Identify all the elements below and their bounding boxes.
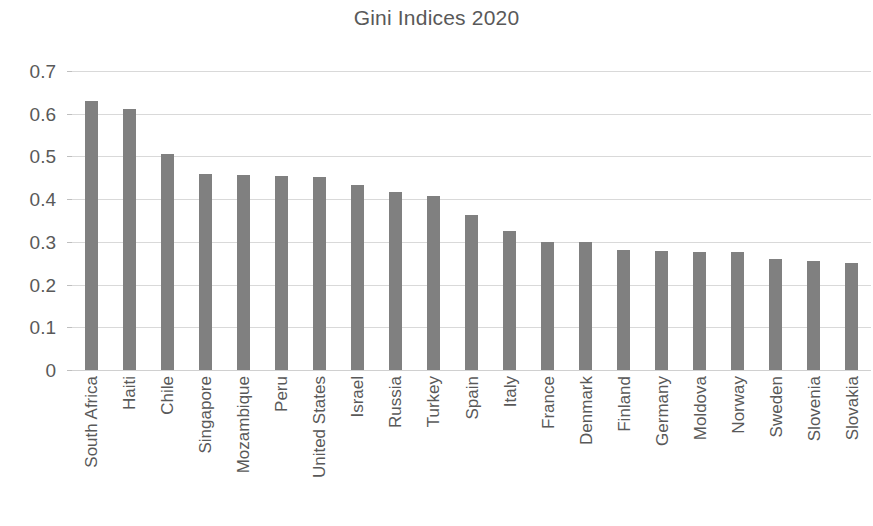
x-axis-label-slot: Italy	[497, 376, 523, 524]
bar	[465, 215, 478, 370]
x-axis-label-slot: Finland	[611, 376, 637, 524]
bar	[427, 196, 440, 370]
y-axis-tick-label: 0.2	[30, 275, 56, 294]
y-tick-mark	[67, 327, 72, 328]
bar	[199, 174, 212, 370]
y-tick-mark	[67, 156, 72, 157]
y-axis-tick-label: 0	[45, 361, 56, 380]
x-axis-label-slot: Norway	[725, 376, 751, 524]
bar	[123, 109, 136, 370]
bar	[313, 177, 326, 370]
x-axis-tick-label: Singapore	[197, 376, 214, 454]
bar	[351, 185, 364, 370]
gridline-0.5	[72, 156, 871, 157]
y-tick-mark	[67, 285, 72, 286]
bar	[731, 252, 744, 370]
x-axis-tick-label: Denmark	[577, 376, 594, 445]
bar	[845, 263, 858, 370]
y-tick-mark	[67, 242, 72, 243]
y-axis-tick-label: 0.5	[30, 147, 56, 166]
bar	[693, 252, 706, 370]
x-axis-tick-label: Haiti	[121, 376, 138, 410]
y-axis: 00.10.20.30.40.50.60.7	[0, 0, 66, 526]
x-axis-tick-label: Germany	[653, 376, 670, 446]
x-axis-tick-label: Mozambique	[235, 376, 252, 473]
x-axis-label-slot: Turkey	[420, 376, 446, 524]
bar	[541, 242, 554, 370]
bar	[579, 242, 592, 370]
y-axis-tick-label: 0.1	[30, 318, 56, 337]
x-axis-label-slot: France	[535, 376, 561, 524]
bar	[85, 101, 98, 370]
x-axis-tick-label: Spain	[463, 376, 480, 419]
bar	[617, 250, 630, 370]
x-axis-label-slot: Mozambique	[230, 376, 256, 524]
y-axis-tick-label: 0.6	[30, 104, 56, 123]
x-axis-label-slot: Singapore	[192, 376, 218, 524]
gridline-0.7	[72, 71, 871, 72]
plot-area	[72, 71, 871, 370]
y-axis-tick-label: 0.3	[30, 232, 56, 251]
bar	[237, 175, 250, 370]
x-axis-label-slot: United States	[306, 376, 332, 524]
x-axis-tick-label: Italy	[501, 376, 518, 407]
x-axis-tick-label: Moldova	[691, 376, 708, 440]
x-axis-tick-label: Norway	[729, 376, 746, 434]
x-axis-label-slot: Germany	[649, 376, 675, 524]
bar	[275, 176, 288, 370]
x-axis-tick-label: United States	[311, 376, 328, 478]
x-axis-tick-label: Chile	[159, 376, 176, 415]
bar	[161, 154, 174, 370]
y-tick-mark	[67, 114, 72, 115]
x-axis-label-slot: Spain	[459, 376, 485, 524]
x-axis-tick-label: Turkey	[425, 376, 442, 427]
x-axis-tick-label: France	[539, 376, 556, 429]
x-axis: South AfricaHaitiChileSingaporeMozambiqu…	[72, 376, 871, 526]
y-tick-mark	[67, 199, 72, 200]
y-axis-tick-label: 0.4	[30, 190, 56, 209]
x-axis-label-slot: Sweden	[763, 376, 789, 524]
x-axis-tick-label: Peru	[273, 376, 290, 412]
x-axis-tick-label: Slovenia	[805, 376, 822, 441]
x-axis-tick-label: Israel	[349, 376, 366, 418]
gridline-0.4	[72, 199, 871, 200]
x-axis-label-slot: Peru	[268, 376, 294, 524]
bar	[807, 261, 820, 370]
x-axis-label-slot: Chile	[154, 376, 180, 524]
bar	[769, 259, 782, 370]
gini-indices-bar-chart: Gini Indices 2020 00.10.20.30.40.50.60.7…	[0, 0, 873, 526]
x-axis-tick-label: Slovakia	[843, 376, 860, 440]
gridline-0	[72, 370, 871, 371]
x-axis-label-slot: Moldova	[687, 376, 713, 524]
x-axis-label-slot: Haiti	[116, 376, 142, 524]
bar	[389, 192, 402, 370]
y-tick-mark	[67, 370, 72, 371]
gridline-0.6	[72, 114, 871, 115]
y-axis-tick-label: 0.7	[30, 62, 56, 81]
x-axis-tick-label: Finland	[615, 376, 632, 432]
x-axis-label-slot: Denmark	[573, 376, 599, 524]
x-axis-label-slot: Slovenia	[801, 376, 827, 524]
x-axis-tick-label: Russia	[387, 376, 404, 428]
x-axis-label-slot: Israel	[344, 376, 370, 524]
y-tick-mark	[67, 71, 72, 72]
x-axis-label-slot: South Africa	[78, 376, 104, 524]
x-axis-tick-label: Sweden	[767, 376, 784, 437]
bar	[503, 231, 516, 370]
x-axis-label-slot: Slovakia	[839, 376, 865, 524]
chart-title: Gini Indices 2020	[0, 6, 873, 30]
bar	[655, 251, 668, 370]
x-axis-label-slot: Russia	[382, 376, 408, 524]
x-axis-tick-label: South Africa	[83, 376, 100, 468]
